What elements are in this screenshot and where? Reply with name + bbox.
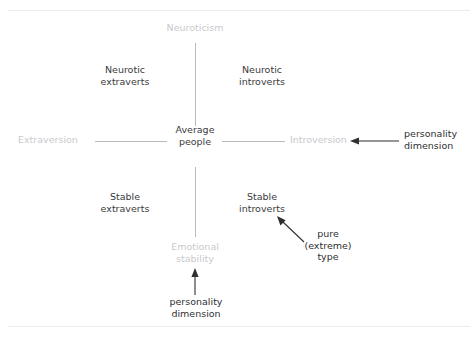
center-label-average-people: Average people bbox=[150, 124, 240, 147]
pole-label-neuroticism: Neuroticism bbox=[150, 22, 240, 34]
personality-dimensions-diagram: Neuroticism Extraversion Introversion Em… bbox=[0, 0, 476, 342]
arrow-to-emotional-stability-icon bbox=[186, 268, 206, 296]
pole-label-emotional-stability: Emotional stability bbox=[150, 241, 240, 264]
annotation-pure-extreme-type: pure (extreme) type bbox=[298, 228, 358, 263]
quadrant-label-stable-introverts: Stable introverts bbox=[212, 191, 312, 214]
quadrant-label-neurotic-introverts: Neurotic introverts bbox=[212, 64, 312, 87]
annotation-horizontal-personality-dimension: personality dimension bbox=[404, 128, 474, 151]
vertical-axis-lower-segment bbox=[195, 167, 197, 237]
annotation-vertical-personality-dimension: personality dimension bbox=[152, 296, 240, 319]
quadrant-label-neurotic-extraverts: Neurotic extraverts bbox=[75, 64, 175, 87]
quadrant-label-stable-extraverts: Stable extraverts bbox=[75, 191, 175, 214]
top-divider bbox=[8, 10, 470, 11]
pole-label-extraversion: Extraversion bbox=[8, 134, 98, 146]
bottom-divider bbox=[8, 326, 470, 327]
vertical-axis-upper-segment bbox=[195, 43, 197, 126]
arrow-to-introversion-icon bbox=[350, 131, 400, 151]
